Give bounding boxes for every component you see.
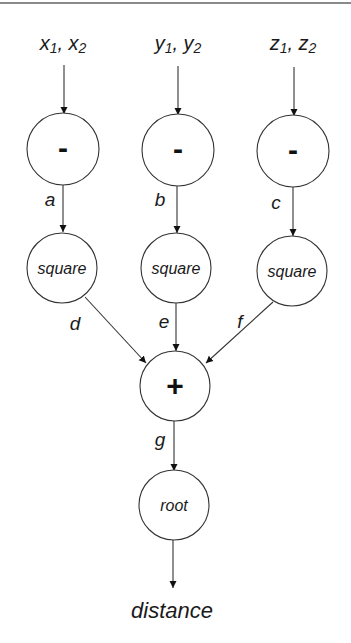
svg-text:-: - [288,133,298,166]
edge-label-a: a [45,189,56,210]
node-square-z: square [257,236,327,306]
node-minus-y: - [142,114,214,186]
node-square-y: square [141,233,211,303]
computation-graph: x1, x2 y1, y2 z1, z2 - - - a b c square … [0,0,351,643]
input-label-z: z1, z2 [269,32,317,56]
node-minus-x: - [27,113,99,185]
svg-text:-: - [173,132,183,165]
svg-text:square: square [268,263,317,280]
svg-text:square: square [38,260,87,277]
edge-label-c: c [271,192,281,213]
svg-text:square: square [152,260,201,277]
node-square-x: square [27,233,97,303]
edge-label-b: b [155,189,166,210]
edge-label-g: g [155,429,166,450]
node-minus-z: - [257,115,329,187]
arrow-d [85,297,146,363]
node-plus: + [140,351,210,421]
svg-text:root: root [160,497,188,514]
edge-label-e: e [159,311,170,332]
input-label-x: x1, x2 [39,32,87,56]
node-root: root [139,470,209,540]
input-label-y: y1, y2 [153,32,202,56]
svg-text:+: + [166,369,184,402]
output-label-distance: distance [131,598,213,623]
svg-text:-: - [58,131,68,164]
edge-label-d: d [70,313,82,334]
